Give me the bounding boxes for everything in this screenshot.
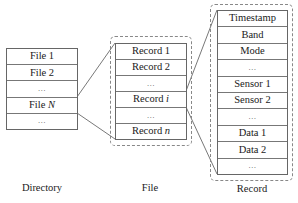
directory-row: File 2 [7,64,77,80]
file-n-index: N [48,99,55,110]
file-row-record-n: Record n [116,123,186,139]
record-i-index: i [166,93,169,104]
record-row-data-2: Data 2 [218,141,287,157]
file-row: Record 2 [116,59,186,75]
file-table: Record 1 Record 2 … Record i … Record n [115,43,187,140]
file-row-ellipsis: … [116,107,186,123]
directory-row-ellipsis: … [7,80,77,96]
file-row-record-i: Record i [116,91,186,107]
directory-row-ellipsis: … [7,113,77,129]
directory-caption: Directory [2,182,82,193]
record-n-index: n [165,125,170,136]
record-row-ellipsis: … [218,59,287,75]
record-row-data-1: Data 1 [218,125,287,141]
directory-row-file-n: File N [7,97,77,113]
record-caption: Record [212,183,292,194]
directory-table: File 1 File 2 … File N … [6,48,78,130]
record-i-label: Record i [133,94,169,105]
record-row-sensor-1: Sensor 1 [218,76,287,92]
record-row-sensor-2: Sensor 2 [218,92,287,108]
file-caption: File [110,182,190,193]
file-row-ellipsis: … [116,75,186,91]
record-row-ellipsis: … [218,158,287,174]
record-row-band: Band [218,26,287,42]
record-row-timestamp: Timestamp [218,11,287,26]
record-row-ellipsis: … [218,108,287,124]
file-row: Record 1 [116,44,186,59]
directory-row: File 1 [7,49,77,64]
record-table: Timestamp Band Mode … Sensor 1 Sensor 2 … [217,10,288,175]
file-n-label: File N [29,100,55,111]
record-n-label: Record n [132,126,170,137]
record-row-mode: Mode [218,43,287,59]
